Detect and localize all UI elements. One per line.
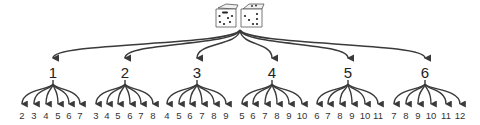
sum-node: 9: [223, 110, 228, 121]
sum-node: 10: [297, 110, 308, 121]
second-roll-edges: [22, 80, 460, 104]
sum-node: 9: [349, 110, 354, 121]
sum-node: 10: [426, 110, 437, 121]
edge-3-to-8: [197, 84, 214, 104]
edge-6-to-8: [406, 84, 425, 104]
sum-node: 5: [115, 110, 120, 121]
first-roll-node: 3: [193, 64, 201, 81]
dice-outcome-tree: 123456 234567345678456789567891067891011…: [0, 0, 480, 125]
sum-node: 6: [250, 110, 255, 121]
sum-node: 11: [373, 110, 383, 121]
sum-node: 6: [66, 110, 71, 121]
sum-node: 9: [415, 110, 420, 121]
sum-node: 8: [274, 110, 279, 121]
sum-node: 9: [286, 110, 291, 121]
sum-node: 7: [325, 110, 330, 121]
sum-node: 6: [187, 110, 192, 121]
sum-node: 8: [337, 110, 342, 121]
edge-4-to-9: [272, 84, 289, 104]
first-roll-node: 2: [121, 64, 129, 81]
first-roll-nodes: 123456: [49, 64, 429, 81]
edge-5-to-7: [328, 84, 348, 104]
sum-node: 7: [77, 110, 82, 121]
sum-node: 3: [31, 110, 36, 121]
sum-node: 5: [239, 110, 244, 121]
edge-6-to-11: [425, 84, 446, 104]
sum-node: 7: [391, 110, 396, 121]
sum-nodes: 2345673456784567895678910678910117891011…: [19, 110, 465, 121]
first-roll-node: 5: [344, 64, 352, 81]
sum-node: 7: [199, 110, 204, 121]
sum-node: 8: [150, 110, 155, 121]
dice-pair-icon: [216, 4, 264, 27]
sum-node: 7: [138, 110, 143, 121]
edge-1-to-6: [53, 84, 69, 104]
sum-node: 3: [93, 110, 98, 121]
sum-node: 6: [127, 110, 132, 121]
edge-1-to-3: [34, 84, 53, 104]
edge-3-to-5: [179, 84, 197, 104]
first-roll-node: 6: [421, 64, 429, 81]
first-roll-node: 4: [268, 64, 276, 81]
sum-node: 5: [176, 110, 181, 121]
sum-node: 8: [403, 110, 408, 121]
sum-node: 4: [43, 110, 48, 121]
sum-node: 11: [441, 110, 451, 121]
die-right-icon: [241, 4, 264, 27]
edge-2-to-7: [125, 84, 141, 104]
edge-root-to-1: [53, 30, 240, 58]
root-edges: [53, 30, 425, 58]
sum-node: 8: [211, 110, 216, 121]
first-roll-node: 1: [49, 64, 57, 81]
edge-root-to-6: [240, 30, 425, 58]
edge-4-to-6: [253, 84, 272, 104]
sum-node: 5: [55, 110, 60, 121]
sum-node: 7: [262, 110, 267, 121]
sum-node: 12: [455, 110, 466, 121]
sum-node: 6: [314, 110, 319, 121]
sum-node: 4: [104, 110, 109, 121]
edge-2-to-4: [107, 84, 125, 104]
sum-node: 2: [19, 110, 24, 121]
sum-node: 4: [164, 110, 169, 121]
sum-node: 10: [360, 110, 371, 121]
die-left-icon: [216, 4, 238, 27]
